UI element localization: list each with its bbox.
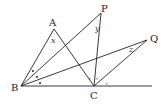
svg-text:×: × [95, 76, 98, 81]
svg-text:×: × [105, 81, 108, 86]
label-A: A [48, 17, 57, 28]
angle-label-y: y [94, 24, 100, 33]
angle-label-x: x [51, 36, 56, 45]
angle-c-marks: × × × [88, 76, 108, 86]
angle-label-z: z [128, 45, 134, 54]
svg-text:×: × [88, 76, 91, 81]
label-B: B [11, 82, 18, 93]
label-P: P [101, 3, 108, 14]
label-C: C [90, 90, 98, 101]
label-Q: Q [150, 33, 158, 44]
segment-QC [94, 40, 147, 86]
geometry-diagram: × × × A P Q B C x y z [0, 0, 167, 104]
